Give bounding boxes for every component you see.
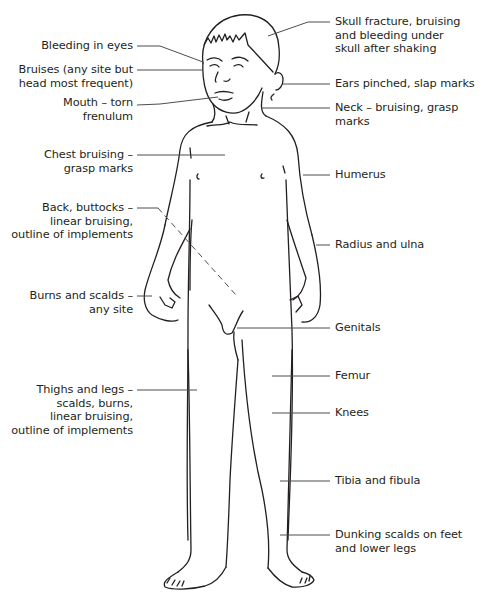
label-thighs-legs: Thighs and legs – scalds, burns, linear … (11, 383, 133, 437)
label-tibia-fibula: Tibia and fibula (335, 474, 420, 488)
label-radius-ulna: Radius and ulna (335, 238, 424, 252)
label-knees: Knees (335, 406, 369, 420)
label-burns-scalds: Burns and scalds – any site (30, 289, 134, 316)
label-chest: Chest bruising – grasp marks (44, 148, 133, 175)
label-bleeding-in-eyes: Bleeding in eyes (41, 39, 133, 53)
label-humerus: Humerus (335, 168, 386, 182)
label-ears: Ears pinched, slap marks (335, 77, 475, 91)
child-abuse-injury-diagram: Bleeding in eyes Bruises (any site but h… (0, 0, 482, 598)
label-neck: Neck – bruising, grasp marks (335, 101, 458, 128)
label-dunking-scalds: Dunking scalds on feet and lower legs (335, 528, 462, 555)
label-skull: Skull fracture, bruising and bleeding un… (335, 15, 460, 56)
label-mouth: Mouth – torn frenulum (63, 96, 133, 123)
label-back-buttocks: Back, buttocks – linear bruising, outlin… (11, 201, 133, 242)
label-bruises: Bruises (any site but head most frequent… (19, 63, 133, 90)
label-genitals: Genitals (335, 321, 381, 335)
label-femur: Femur (335, 369, 370, 383)
leader-lines (137, 22, 330, 535)
